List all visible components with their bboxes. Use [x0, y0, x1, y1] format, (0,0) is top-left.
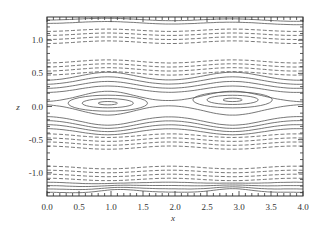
x-tick-label: 2.0	[169, 202, 181, 212]
dashed-contour	[47, 60, 303, 63]
dashed-contour	[47, 146, 303, 149]
contour-lines	[47, 18, 303, 193]
dashed-contour	[47, 37, 303, 40]
dashed-contour	[47, 134, 303, 138]
dashed-contour	[47, 142, 303, 145]
solid-contour	[47, 182, 303, 184]
y-axis-label: z	[15, 102, 20, 112]
vortex-contour	[223, 98, 242, 101]
contour-chart: 0.00.51.01.52.02.53.03.54.0 -1.0-0.50.00…	[0, 0, 326, 241]
dashed-contour	[47, 33, 303, 35]
dashed-contour	[47, 170, 303, 173]
x-tick-label: 1.0	[105, 202, 117, 212]
x-tick-label: 2.5	[201, 202, 213, 212]
y-tick-label: -1.0	[29, 168, 44, 178]
x-tick-label: 0.0	[41, 202, 53, 212]
x-tick-label: 3.0	[233, 202, 245, 212]
dashed-contour	[47, 68, 303, 71]
y-tick-label: 0.5	[32, 68, 44, 78]
vortex-contour	[193, 92, 272, 108]
dashed-contour	[47, 41, 303, 44]
x-tick-label: 3.5	[265, 202, 277, 212]
y-tick-labels: -1.0-0.50.00.51.0	[29, 35, 44, 178]
vortex-contour	[68, 95, 147, 111]
y-tick-label: 0.0	[32, 102, 44, 112]
solid-contour	[47, 187, 303, 190]
x-axis-label: x	[170, 213, 175, 223]
dashed-contour	[47, 64, 303, 67]
solid-contour	[47, 86, 303, 93]
dashed-contour	[47, 178, 303, 180]
y-tick-label: 1.0	[32, 35, 44, 45]
dashed-contour	[47, 174, 303, 177]
x-tick-label: 4.0	[297, 202, 309, 212]
vortex-contour	[82, 99, 133, 108]
dashed-contour	[47, 138, 303, 142]
x-tick-label: 1.5	[137, 202, 149, 212]
dashed-contour	[47, 29, 303, 31]
solid-contour	[47, 81, 303, 88]
x-tick-label: 0.5	[73, 202, 85, 212]
x-tick-labels: 0.00.51.01.52.02.53.03.54.0	[41, 202, 309, 212]
y-tick-label: -0.5	[29, 135, 44, 145]
vortex-contour	[98, 101, 117, 104]
vortex-contour	[207, 95, 258, 104]
chart-svg: 0.00.51.01.52.02.53.03.54.0 -1.0-0.50.00…	[0, 0, 326, 241]
dashed-contour	[47, 166, 303, 169]
solid-contour	[47, 185, 303, 187]
solid-contour	[47, 77, 303, 85]
